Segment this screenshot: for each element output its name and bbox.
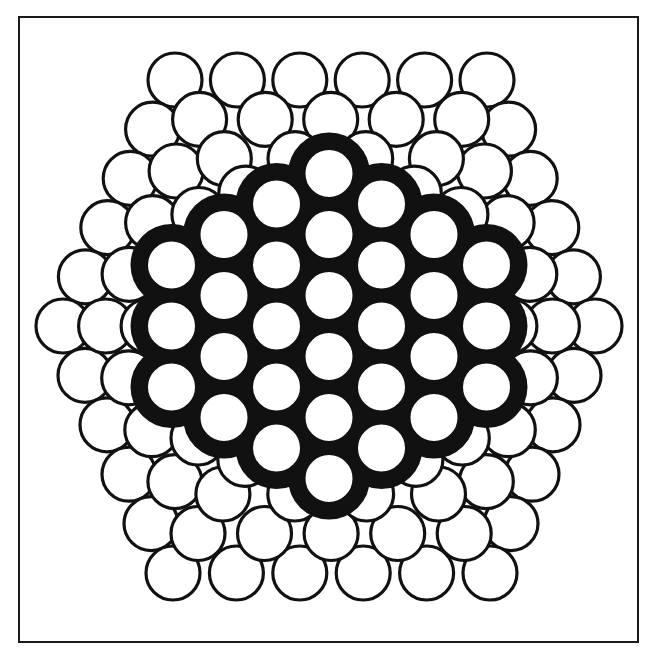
front-atom <box>304 393 354 443</box>
front-atom <box>357 179 407 229</box>
front-atom <box>147 301 197 351</box>
front-atom <box>357 362 407 412</box>
front-atom <box>462 362 512 412</box>
front-atom <box>252 301 302 351</box>
front-atom <box>409 332 459 382</box>
front-atom <box>147 362 197 412</box>
front-atom <box>357 423 407 473</box>
front-atom <box>252 423 302 473</box>
front-atom <box>252 179 302 229</box>
front-atom <box>409 271 459 321</box>
front-atom <box>252 240 302 290</box>
front-atom <box>252 362 302 412</box>
front-atom <box>304 454 354 504</box>
front-atom <box>462 301 512 351</box>
front-atom <box>147 240 197 290</box>
front-atom <box>304 332 354 382</box>
front-atom <box>357 240 407 290</box>
cluster-diagram <box>0 0 656 658</box>
front-atom <box>199 210 249 260</box>
front-atom <box>409 210 459 260</box>
front-atom <box>199 271 249 321</box>
front-atom <box>304 271 354 321</box>
front-atom <box>199 332 249 382</box>
front-atom <box>409 393 459 443</box>
front-atom <box>304 210 354 260</box>
front-atom <box>357 301 407 351</box>
front-atom <box>199 393 249 443</box>
front-atom <box>304 149 354 199</box>
front-atom <box>462 240 512 290</box>
